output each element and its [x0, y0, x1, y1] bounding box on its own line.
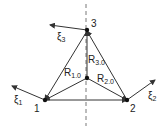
node-label-2: 2: [130, 103, 136, 114]
xi3-label: ξ3: [57, 31, 65, 43]
r2-label: R2.0: [97, 73, 114, 85]
node-label-1: 1: [34, 103, 40, 114]
xi2-label: ξ2: [148, 90, 156, 102]
r1-label: R1.0: [64, 67, 81, 79]
xi1-label: ξ1: [14, 94, 22, 106]
node-label-3: 3: [91, 18, 97, 29]
center-node: [85, 76, 89, 80]
node-1: [43, 98, 47, 102]
node-2: [125, 98, 129, 102]
r3-label: R3.0: [88, 54, 105, 66]
triangle-diagram: 1 2 3 ξ1 ξ2 ξ3 R1.0 R2.0 R3.0: [0, 0, 165, 131]
xi3-arrow: [50, 25, 87, 30]
node-3: [85, 28, 89, 32]
